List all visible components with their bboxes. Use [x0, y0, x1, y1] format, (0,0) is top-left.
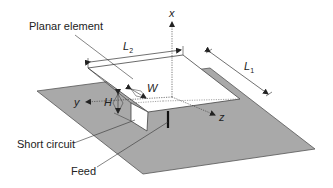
feed-label: Feed: [71, 165, 96, 177]
z-axis-label: z: [218, 111, 225, 123]
h-label: H: [104, 96, 112, 108]
l2-label: L2: [123, 40, 133, 54]
pifa-diagram: x y z L2 L1 H W Planar element Short cir…: [0, 0, 333, 188]
l1-extension: [266, 92, 272, 96]
short-circuit-label: Short circuit: [17, 138, 75, 150]
l1-label: L1: [244, 60, 254, 74]
planar-element-label: Planar element: [29, 20, 103, 32]
x-axis-label: x: [168, 7, 175, 19]
w-label: W: [147, 82, 159, 94]
